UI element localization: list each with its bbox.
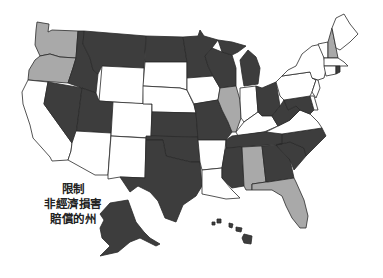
state-hi-1 (212, 222, 215, 225)
state-sd (143, 62, 187, 90)
state-wa (35, 22, 78, 58)
state-ri (336, 66, 340, 74)
map-legend: 限制 非經濟損害 賠償的州 (38, 182, 108, 227)
legend-line-3: 賠償的州 (38, 212, 108, 227)
state-hi-3 (229, 223, 233, 228)
state-me (332, 14, 358, 50)
state-co (111, 102, 152, 138)
state-nd (145, 36, 187, 62)
state-hi-4 (236, 227, 242, 232)
state-or (28, 54, 76, 83)
state-mi (240, 50, 260, 86)
legend-line-2: 非經濟損害 (38, 197, 108, 212)
state-ar (198, 140, 226, 170)
state-ct (324, 66, 336, 76)
state-fl (252, 178, 308, 228)
state-ma (324, 58, 348, 66)
us-state-map (0, 0, 383, 278)
state-hi-5 (242, 234, 252, 244)
state-wy (99, 66, 144, 104)
state-az (68, 131, 111, 175)
state-ak (100, 200, 160, 256)
state-hi-2 (217, 219, 221, 223)
state-nm (108, 136, 146, 179)
state-ks (151, 112, 198, 137)
legend-line-1: 限制 (38, 182, 108, 197)
state-ms (222, 147, 244, 188)
